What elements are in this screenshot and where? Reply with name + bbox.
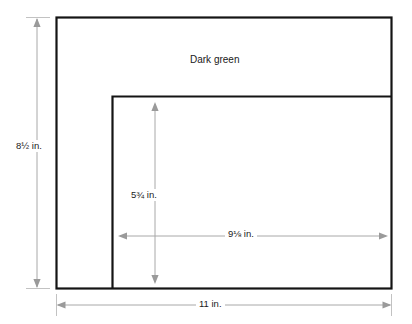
arrowhead-inner-up [151, 102, 158, 111]
dimension-label-inner-height: 5¾ in. [128, 189, 160, 201]
arrowhead-left [57, 301, 66, 308]
dimension-label-inner-width: 9⅛ in. [225, 228, 257, 240]
region-label-dark-green: Dark green [186, 55, 243, 65]
arrowhead-inner-left [118, 232, 127, 239]
diagram-canvas [0, 0, 412, 324]
dimension-label-overall-height: 8½ in. [13, 140, 45, 152]
figure-diagram: Dark green 8½ in. 5¾ in. 9⅛ in. 11 in. [0, 0, 412, 324]
dimension-overall-height [26, 18, 50, 289]
dimension-label-overall-width: 11 in. [196, 298, 225, 310]
arrowhead-up [33, 18, 40, 27]
arrowhead-down [33, 279, 40, 288]
arrowhead-inner-down [151, 275, 158, 284]
arrowhead-inner-right [379, 232, 388, 239]
arrowhead-right [383, 301, 392, 308]
